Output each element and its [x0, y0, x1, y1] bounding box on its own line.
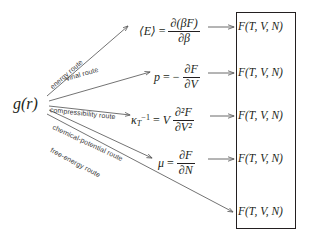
outcome-item: F(T, V, N): [238, 206, 283, 218]
energy-equation: ⟨E⟩ = ∂(βF) ∂β: [139, 18, 200, 47]
chemical-potential-equation: μ = ∂F ∂N: [158, 150, 195, 179]
chemical-potential-equation-relation: =: [167, 156, 174, 170]
energy-equation-fraction: ∂(βF) ∂β: [168, 17, 199, 46]
outcome-item: F(T, V, N): [238, 153, 283, 165]
outcome-item: F(T, V, N): [238, 21, 283, 33]
compressibility-equation-fraction: ∂²F ∂V²: [173, 106, 194, 135]
chemical-potential-equation-fraction: ∂F ∂N: [177, 149, 195, 178]
virial-equation-sign: −: [173, 70, 180, 84]
chemical-potential-equation-denominator: ∂N: [177, 164, 195, 178]
energy-equation-numerator: ∂(βF): [168, 17, 199, 32]
outcome-item: F(T, V, N): [238, 67, 283, 79]
compressibility-equation-relation: =: [153, 113, 160, 127]
compressibility-equation-numerator: ∂²F: [173, 106, 194, 121]
chemical-potential-equation-numerator: ∂F: [177, 149, 195, 164]
compressibility-equation-denominator: ∂V²: [173, 121, 194, 135]
virial-equation: p = − ∂F ∂V: [154, 64, 200, 93]
energy-equation-denominator: ∂β: [168, 32, 199, 46]
source-node-label: g(r): [13, 95, 38, 112]
route-arrow-energy: [47, 26, 128, 96]
compressibility-equation-prefactor: V: [163, 113, 170, 127]
chemical-potential-equation-lhs: μ: [158, 156, 164, 170]
energy-equation-lhs: ⟨E⟩: [139, 24, 156, 38]
virial-equation-relation: =: [163, 70, 170, 84]
energy-equation-relation: =: [159, 24, 166, 38]
virial-equation-denominator: ∂V: [183, 78, 200, 92]
virial-equation-fraction: ∂F ∂V: [183, 63, 200, 92]
virial-equation-numerator: ∂F: [183, 63, 200, 78]
source-node-gr: g(r): [13, 96, 38, 112]
diagram-canvas: g(r) energy route virial route compressi…: [0, 0, 309, 240]
virial-equation-lhs: p: [154, 70, 160, 84]
outcome-item: F(T, V, N): [238, 110, 283, 122]
compressibility-equation: κT−1 = V ∂²F ∂V²: [131, 107, 194, 136]
compressibility-equation-lhs: κT−1: [131, 113, 150, 127]
